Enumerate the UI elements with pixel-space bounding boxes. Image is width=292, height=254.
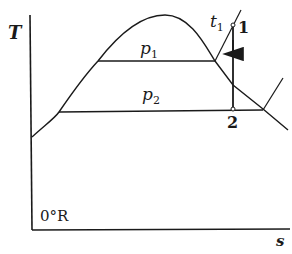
s-axis bbox=[32, 229, 290, 230]
ts-diagram: T s 0°R p1 p2 t1 1 2 bbox=[0, 0, 292, 254]
point-1-label: 1 bbox=[238, 18, 249, 37]
origin-label: 0°R bbox=[40, 207, 69, 225]
point-1-marker bbox=[231, 23, 235, 27]
s-axis-label: s bbox=[276, 232, 285, 250]
t1-label: t1 bbox=[210, 11, 224, 34]
isobar-p2-superheat bbox=[263, 78, 283, 110]
t-axis-label: T bbox=[8, 22, 23, 43]
saturation-dome bbox=[32, 15, 288, 137]
t-axis bbox=[30, 15, 32, 230]
p2-label: p2 bbox=[142, 84, 160, 107]
point-2-label: 2 bbox=[227, 113, 238, 132]
point-2-marker bbox=[231, 107, 235, 111]
p1-label: p1 bbox=[140, 38, 158, 61]
